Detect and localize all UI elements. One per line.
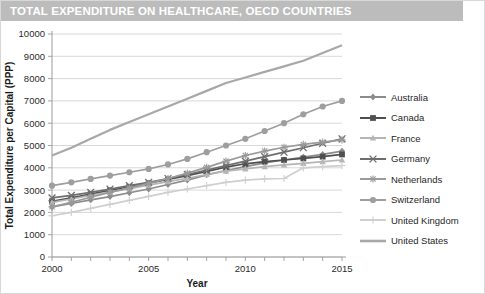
legend-item-netherlands[interactable]: Netherlands <box>359 169 483 190</box>
y-axis-tick-label: 0 <box>40 251 45 262</box>
data-point-asterisk-marker <box>338 136 345 143</box>
legend-label: United Kingdom <box>387 215 459 226</box>
page-title: TOTAL EXPENDITURE ON HEALTHCARE, OECD CO… <box>1 5 352 17</box>
title-banner: TOTAL EXPENDITURE ON HEALTHCARE, OECD CO… <box>1 1 463 21</box>
data-point-asterisk-marker <box>242 152 249 159</box>
data-point-plus-marker <box>369 217 376 224</box>
legend-marker-plus-icon <box>359 212 387 228</box>
legend-label: Switzerland <box>387 194 440 205</box>
chart-container: TOTAL EXPENDITURE ON HEALTHCARE, OECD CO… <box>0 0 485 294</box>
data-point-square-marker <box>370 115 376 121</box>
legend-item-switzerland[interactable]: Switzerland <box>359 190 483 211</box>
legend-item-france[interactable]: France <box>359 128 483 149</box>
legend-item-canada[interactable]: Canada <box>359 108 483 129</box>
data-point-circle-marker <box>88 176 94 182</box>
y-axis-tick-label: 8000 <box>24 73 45 84</box>
y-axis-tick-label: 3000 <box>24 185 45 196</box>
y-axis-tick-label: 6000 <box>24 118 45 129</box>
y-axis-tick-label: 2000 <box>24 207 45 218</box>
data-point-circle-marker <box>49 183 55 189</box>
legend-label: Germany <box>387 153 430 164</box>
data-point-plus-marker <box>222 179 229 186</box>
data-point-square-marker <box>339 152 345 158</box>
legend-marker-line-icon <box>359 233 387 249</box>
data-point-circle-marker <box>242 136 248 142</box>
data-point-asterisk-marker <box>369 176 376 183</box>
legend-label: France <box>387 133 421 144</box>
data-point-plus-marker <box>203 182 210 189</box>
data-point-plus-marker <box>319 163 326 170</box>
data-point-asterisk-marker <box>145 180 152 187</box>
data-point-plus-marker <box>242 176 249 183</box>
legend-label: Australia <box>387 92 428 103</box>
data-point-circle-marker <box>300 111 306 117</box>
data-point-circle-marker <box>339 98 345 104</box>
data-point-asterisk-marker <box>261 147 268 154</box>
data-point-circle-marker <box>223 142 229 148</box>
legend-label: Canada <box>387 112 424 123</box>
data-point-asterisk-marker <box>280 144 287 151</box>
legend-marker-triangle-icon <box>359 130 387 146</box>
data-point-asterisk-marker <box>68 199 75 206</box>
legend-item-germany[interactable]: Germany <box>359 149 483 170</box>
y-axis-tick-label: 1000 <box>24 229 45 240</box>
legend-item-australia[interactable]: Australia <box>359 87 483 108</box>
legend-marker-cross-icon <box>359 151 387 167</box>
y-axis-title: Total Expenditure per Capital (PPP) <box>4 62 15 230</box>
data-point-plus-marker <box>126 197 133 204</box>
data-point-plus-marker <box>87 205 94 212</box>
legend-label: United States <box>387 235 448 246</box>
data-point-asterisk-marker <box>222 158 229 165</box>
data-point-circle-marker <box>68 179 74 185</box>
chart-legend: AustraliaCanadaFranceGermanyNetherlandsS… <box>359 87 483 251</box>
data-point-asterisk-marker <box>87 194 94 201</box>
legend-marker-circle-icon <box>359 192 387 208</box>
data-point-asterisk-marker <box>126 184 133 191</box>
x-axis-tick-label: 2005 <box>138 263 159 274</box>
x-axis-tick-label: 2015 <box>331 263 352 274</box>
data-point-asterisk-marker <box>48 203 55 210</box>
data-point-plus-marker <box>48 212 55 219</box>
legend-marker-diamond-icon <box>359 89 387 105</box>
legend-item-united-states[interactable]: United States <box>359 231 483 252</box>
legend-label: Netherlands <box>387 174 442 185</box>
data-point-circle-marker <box>281 120 287 126</box>
data-point-circle-marker <box>126 169 132 175</box>
data-point-circle-marker <box>262 128 268 134</box>
series-switzerland <box>49 98 345 189</box>
series-line <box>52 45 342 155</box>
y-axis-tick-label: 5000 <box>24 140 45 151</box>
legend-marker-square-icon <box>359 110 387 126</box>
legend-marker-asterisk-icon <box>359 171 387 187</box>
series-united-states <box>52 45 342 155</box>
data-point-circle-marker <box>320 103 326 109</box>
data-point-asterisk-marker <box>319 139 326 146</box>
data-point-circle-marker <box>370 197 376 203</box>
y-axis-tick-label: 7000 <box>24 95 45 106</box>
data-point-plus-marker <box>280 175 287 182</box>
data-point-asterisk-marker <box>184 170 191 177</box>
data-point-circle-marker <box>184 156 190 162</box>
data-point-asterisk-marker <box>164 175 171 182</box>
data-point-plus-marker <box>106 201 113 208</box>
data-point-asterisk-marker <box>203 164 210 171</box>
data-point-circle-marker <box>204 149 210 155</box>
y-axis-tick-label: 10000 <box>19 28 45 39</box>
x-axis-title: Year <box>186 278 207 289</box>
data-point-plus-marker <box>261 175 268 182</box>
data-point-circle-marker <box>107 173 113 179</box>
data-point-circle-marker <box>165 161 171 167</box>
data-point-asterisk-marker <box>106 189 113 196</box>
x-axis-tick-label: 2010 <box>235 263 256 274</box>
x-axis-tick-label: 2000 <box>41 263 62 274</box>
data-point-plus-marker <box>145 193 152 200</box>
y-axis-tick-label: 4000 <box>24 162 45 173</box>
data-point-plus-marker <box>68 209 75 216</box>
data-point-plus-marker <box>184 185 191 192</box>
data-point-diamond-marker <box>370 94 376 101</box>
series-line <box>52 139 342 198</box>
y-axis-tick-label: 9000 <box>24 51 45 62</box>
data-point-circle-marker <box>146 166 152 172</box>
data-point-asterisk-marker <box>300 141 307 148</box>
legend-item-united-kingdom[interactable]: United Kingdom <box>359 210 483 231</box>
